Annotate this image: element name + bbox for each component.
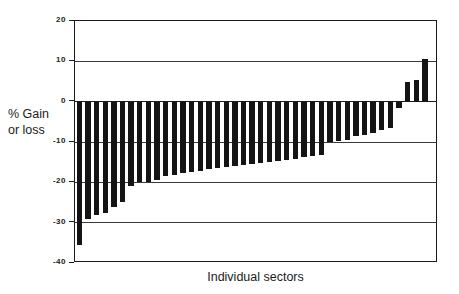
bar bbox=[396, 102, 401, 108]
bar bbox=[327, 102, 332, 142]
chart-figure: 20100-10-20-30-40 % Gain or loss Individ… bbox=[0, 0, 459, 294]
y-tick-label-0: 0 bbox=[0, 96, 66, 105]
bar bbox=[232, 102, 237, 167]
bar bbox=[370, 102, 375, 133]
bar bbox=[310, 102, 315, 156]
bar bbox=[267, 102, 272, 163]
bar bbox=[103, 102, 108, 213]
bar bbox=[275, 102, 280, 162]
bar bbox=[180, 102, 185, 174]
y-axis-title: % Gain or loss bbox=[8, 106, 70, 138]
bar bbox=[336, 102, 341, 142]
bar bbox=[77, 102, 82, 245]
bar bbox=[206, 102, 211, 170]
y-tick-label-10: 10 bbox=[0, 55, 66, 64]
bar bbox=[379, 102, 384, 130]
bar bbox=[172, 102, 177, 175]
y-tick-label--20: -20 bbox=[0, 176, 66, 185]
bar bbox=[94, 102, 99, 215]
y-axis-title-line-2: or loss bbox=[8, 122, 70, 138]
bar bbox=[345, 102, 350, 140]
bar bbox=[215, 102, 220, 169]
bar bbox=[414, 80, 419, 101]
bar bbox=[284, 102, 289, 160]
bar bbox=[163, 102, 168, 177]
bar bbox=[128, 102, 133, 187]
bar bbox=[224, 102, 229, 167]
bar-series bbox=[75, 21, 436, 261]
bar bbox=[189, 102, 194, 173]
bar bbox=[111, 102, 116, 207]
bar bbox=[258, 102, 263, 163]
bar bbox=[301, 102, 306, 158]
y-tick-label-20: 20 bbox=[0, 15, 66, 24]
bar bbox=[319, 102, 324, 155]
bar bbox=[249, 102, 254, 165]
bar bbox=[422, 59, 427, 101]
bar bbox=[388, 102, 393, 128]
y-tick-label--30: -30 bbox=[0, 217, 66, 226]
bar bbox=[154, 102, 159, 181]
bar bbox=[241, 102, 246, 166]
bar bbox=[293, 102, 298, 159]
x-axis-title: Individual sectors bbox=[74, 270, 437, 284]
bar bbox=[146, 102, 151, 182]
bar bbox=[353, 102, 358, 136]
y-tick-label--40: -40 bbox=[0, 257, 66, 266]
plot-area bbox=[74, 20, 437, 262]
bar bbox=[362, 102, 367, 135]
bar bbox=[405, 82, 410, 102]
y-axis-title-line-1: % Gain bbox=[8, 106, 70, 122]
bar bbox=[198, 102, 203, 171]
bar bbox=[120, 102, 125, 203]
bar bbox=[85, 102, 90, 219]
y-axis: 20100-10-20-30-40 bbox=[0, 0, 74, 294]
bar bbox=[137, 102, 142, 183]
